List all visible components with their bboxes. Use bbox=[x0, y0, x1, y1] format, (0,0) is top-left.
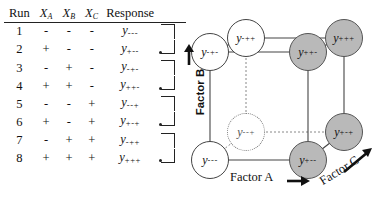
response-subscript: --+ bbox=[127, 100, 139, 110]
cell-xa: - bbox=[35, 95, 58, 113]
table-row: 6+-+y+-+ bbox=[4, 113, 186, 131]
cell-response: y--+ bbox=[103, 95, 157, 113]
table-header: Run XA XB XC Response bbox=[4, 6, 186, 23]
node-pmp[interactable]: y+-+ bbox=[325, 113, 363, 151]
node-pmm-subscript: +-- bbox=[305, 155, 317, 165]
cell-xb: + bbox=[58, 150, 81, 168]
xc-subscript: C bbox=[93, 12, 99, 21]
response-subscript: +-+ bbox=[126, 118, 140, 128]
bracket-bottom-icon bbox=[161, 149, 175, 163]
cell-run: 1 bbox=[4, 23, 35, 42]
column-header-xb: XB bbox=[58, 6, 81, 23]
node-mmm-subscript: --- bbox=[208, 155, 218, 165]
cell-xa: + bbox=[35, 113, 58, 131]
response-subscript: -+- bbox=[127, 64, 139, 74]
response-subscript: -++ bbox=[126, 136, 140, 146]
xb-symbol: X bbox=[63, 6, 71, 20]
factor-a-arrow-icon bbox=[287, 174, 311, 192]
cell-xb: - bbox=[58, 41, 81, 59]
cell-bracket bbox=[157, 150, 186, 168]
cell-xa: - bbox=[35, 23, 58, 42]
design-run-table: Run XA XB XC Response 1---y---2+--y+--3-… bbox=[4, 6, 186, 166]
node-mpp[interactable]: y-++ bbox=[227, 19, 265, 57]
cell-run: 8 bbox=[4, 150, 35, 168]
bracket-bottom-icon bbox=[161, 112, 175, 126]
column-header-xa: XA bbox=[35, 6, 58, 23]
bracket-bottom-icon bbox=[161, 76, 175, 90]
cell-xb: + bbox=[58, 132, 81, 150]
bracket-dot-icon bbox=[159, 159, 162, 162]
table-row: 1---y--- bbox=[4, 23, 186, 42]
bracket-dot-icon bbox=[159, 123, 162, 126]
table-row: 7-++y-++ bbox=[4, 132, 186, 150]
node-ppp-subscript: +++ bbox=[339, 33, 355, 43]
bracket-top-icon bbox=[161, 24, 175, 39]
factor-b-text: Factor B bbox=[194, 69, 206, 116]
cell-response: y-+- bbox=[103, 59, 157, 77]
node-ppm-subscript: ++- bbox=[304, 47, 318, 57]
bracket-top-icon bbox=[161, 133, 175, 148]
cell-xb: - bbox=[58, 23, 81, 42]
cell-bracket bbox=[157, 113, 186, 131]
cell-bracket bbox=[157, 132, 186, 150]
node-ppp[interactable]: y+++ bbox=[325, 19, 363, 57]
cube-plot: y-++ y+++ y-+- y++- y--+ y+-+ y--- y+-- … bbox=[186, 0, 378, 209]
node-mpm-subscript: -+- bbox=[207, 47, 219, 57]
cell-xc: - bbox=[80, 59, 103, 77]
node-mmp-subscript: --+ bbox=[243, 127, 255, 137]
node-mpp-subscript: -++ bbox=[242, 33, 256, 43]
column-header-run: Run bbox=[4, 6, 35, 23]
cell-xa: - bbox=[35, 132, 58, 150]
xa-subscript: A bbox=[47, 12, 52, 21]
xb-subscript: B bbox=[70, 12, 75, 21]
cell-xb: - bbox=[58, 113, 81, 131]
column-header-response: Response bbox=[103, 6, 157, 23]
table-row: 3-+-y-+- bbox=[4, 59, 186, 77]
node-ppm[interactable]: y++- bbox=[289, 33, 327, 71]
axis-label-factor-a: Factor A bbox=[230, 170, 273, 185]
table-body: 1---y---2+--y+--3-+-y-+-4++-y++-5--+y--+… bbox=[4, 23, 186, 168]
table-row: 5--+y--+ bbox=[4, 95, 186, 113]
cell-response: y+-- bbox=[103, 41, 157, 59]
cell-xc: - bbox=[80, 23, 103, 42]
cell-run: 7 bbox=[4, 132, 35, 150]
bracket-dot-icon bbox=[159, 87, 162, 90]
cell-xc: + bbox=[80, 132, 103, 150]
response-subscript: --- bbox=[128, 28, 138, 38]
cell-run: 3 bbox=[4, 59, 35, 77]
cell-xb: + bbox=[58, 59, 81, 77]
factor-a-text: Factor A bbox=[230, 170, 273, 184]
cell-bracket bbox=[157, 95, 186, 113]
cell-run: 6 bbox=[4, 113, 35, 131]
bracket-bottom-icon bbox=[161, 40, 175, 54]
cell-bracket bbox=[157, 77, 186, 95]
cell-xc: + bbox=[80, 150, 103, 168]
response-subscript: +++ bbox=[125, 154, 141, 164]
cell-xc: - bbox=[80, 41, 103, 59]
response-subscript: ++- bbox=[126, 82, 140, 92]
cell-bracket bbox=[157, 23, 186, 42]
cell-response: y+-+ bbox=[103, 113, 157, 131]
cell-xb: + bbox=[58, 77, 81, 95]
table-row: 4++-y++- bbox=[4, 77, 186, 95]
cell-run: 4 bbox=[4, 77, 35, 95]
cell-response: y--- bbox=[103, 23, 157, 42]
cell-xc: + bbox=[80, 113, 103, 131]
cell-xa: - bbox=[35, 59, 58, 77]
table-row: 2+--y+-- bbox=[4, 41, 186, 59]
factor-b-arrow-icon bbox=[182, 44, 196, 70]
cell-run: 2 bbox=[4, 41, 35, 59]
cell-xa: + bbox=[35, 150, 58, 168]
xc-symbol: X bbox=[85, 6, 93, 20]
table-header-row: Run XA XB XC Response bbox=[4, 6, 186, 23]
cell-response: y++- bbox=[103, 77, 157, 95]
cell-response: y+++ bbox=[103, 150, 157, 168]
node-mmm[interactable]: y--- bbox=[191, 141, 229, 179]
cell-xb: - bbox=[58, 95, 81, 113]
cell-xc: - bbox=[80, 77, 103, 95]
cell-response: y-++ bbox=[103, 132, 157, 150]
node-mmp[interactable]: y--+ bbox=[227, 113, 265, 151]
response-subscript: +-- bbox=[127, 46, 139, 56]
cell-xc: + bbox=[80, 95, 103, 113]
cell-xa: + bbox=[35, 41, 58, 59]
